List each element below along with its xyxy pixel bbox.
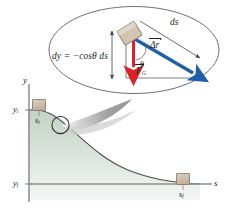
physics-figure-canvas [0, 0, 228, 208]
force-subscript: G [142, 70, 146, 76]
s-initial-sub: i [38, 119, 39, 125]
y-axis-label: y [23, 76, 27, 85]
dy-equation-label: dy = −cosθ ds [52, 52, 108, 62]
magnifier-leader [61, 99, 136, 135]
ds-label: ds [170, 18, 178, 28]
displacement-symbol: Δr [150, 40, 159, 50]
y-final-sub: f [17, 182, 18, 188]
y-initial-sub: i [17, 108, 18, 114]
force-symbol: F [136, 66, 142, 76]
s-final-sub: f [182, 193, 183, 199]
s-initial-label: si [35, 116, 40, 125]
y-final-label: yf [13, 179, 18, 188]
y-initial-label: yi [13, 105, 18, 114]
gravity-force-label: FG [136, 67, 146, 77]
displacement-vector-label: Δr [150, 41, 159, 51]
s-axis-label: s [214, 179, 218, 188]
s-final-label: sf [179, 190, 184, 199]
